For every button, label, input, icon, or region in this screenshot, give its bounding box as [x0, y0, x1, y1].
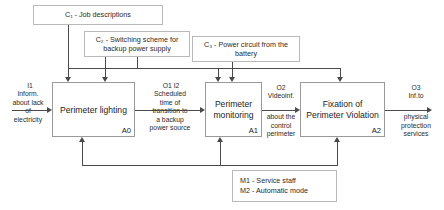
activity-box-a0[interactable]: Perimeter lighting A0	[52, 82, 135, 137]
flow-label-o3-tail: physical protection services	[392, 113, 440, 139]
flow-label-o2-tail: about the control perimeter	[261, 113, 301, 139]
activity-title-a1: Perimeter monitoring	[206, 99, 261, 121]
activity-title-a2: Fixation of Perimeter Violation	[301, 99, 384, 121]
flow-arrowhead-o1i2	[200, 107, 205, 113]
flow-line-o3	[385, 110, 428, 111]
flow-arrowhead-i1	[47, 107, 52, 113]
control-box-c1: C₁ - Job descriptions	[33, 5, 163, 25]
control-drop-a2	[340, 68, 341, 77]
activity-code-a1: A1	[249, 126, 258, 135]
control-box-c3: C₃ - Power circuit from the battery	[192, 36, 300, 62]
control-drop-a1-right	[232, 62, 233, 77]
flow-arrowhead-o3	[427, 107, 432, 113]
control-bus-horizontal	[68, 68, 340, 69]
mechanism-bus-horizontal	[82, 165, 338, 166]
flow-line-o1i2	[135, 110, 201, 111]
control-line-c1-vertical	[68, 25, 69, 68]
flow-line-i1	[12, 110, 48, 111]
activity-box-a1[interactable]: Perimeter monitoring A1	[205, 82, 262, 137]
activity-code-a0: A0	[122, 126, 131, 135]
control-drop-a0-left	[68, 68, 69, 77]
control-drop-a0-right	[105, 57, 106, 77]
control-drop-a1-left	[218, 68, 219, 77]
flow-line-o2	[262, 110, 296, 111]
control-line-c2-vertical	[137, 57, 138, 68]
mechanism-arrowhead-a1	[217, 137, 223, 142]
activity-code-a2: A2	[372, 126, 381, 135]
mechanism-arrowhead-a2	[334, 137, 340, 142]
idef0-diagram-canvas: C₁ - Job descriptions C₂ - Switching sch…	[0, 0, 444, 210]
flow-label-o3-sub: Inf.to	[396, 92, 436, 101]
flow-label-i1-text: Inform. about lack of electricity	[4, 90, 52, 124]
mechanism-riser-a1	[220, 142, 221, 165]
mechanism-riser-a2	[337, 142, 338, 165]
flow-label-o1i2-text: Scheduled time of transition to a backup…	[136, 90, 204, 133]
flow-label-o2-sub: Videoinf.	[263, 92, 299, 101]
activity-box-a2[interactable]: Fixation of Perimeter Violation A2	[300, 82, 385, 137]
control-box-c2: C₂ - Switching scheme for backup power s…	[84, 31, 190, 57]
mechanism-legend-box: M1 - Service staff M2 - Automatic mode	[232, 170, 337, 202]
mechanism-riser-a0	[82, 142, 83, 165]
mechanism-arrowhead-a0	[79, 137, 85, 142]
activity-title-a0: Perimeter lighting	[53, 104, 134, 115]
flow-arrowhead-o2	[295, 107, 300, 113]
